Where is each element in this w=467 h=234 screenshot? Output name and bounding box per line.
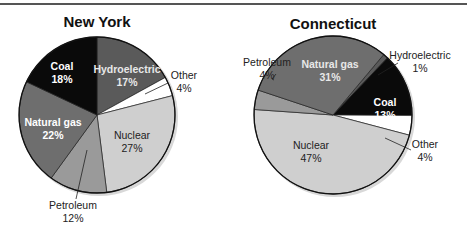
slice-label-other: Other <box>412 138 439 150</box>
slice-value-hydroelectric: 17% <box>116 76 138 88</box>
slice-label-coal: Coal <box>51 60 74 72</box>
slice-label-petroleum: Petroleum <box>243 56 291 68</box>
slice-value-petroleum: 12% <box>62 212 83 224</box>
pie-new-york: New York Coal 18% Hydroelectric 17% Othe… <box>19 13 198 224</box>
pie-slices <box>19 37 175 193</box>
slice-label-natural-gas: Natural gas <box>24 116 81 128</box>
slice-value-coal: 13% <box>374 109 396 121</box>
slice-label-hydroelectric: Hydroelectric <box>389 49 450 61</box>
slice-value-natural-gas: 31% <box>319 71 341 83</box>
slice-value-natural-gas: 22% <box>42 129 64 141</box>
slice-value-nuclear: 27% <box>121 142 142 154</box>
slice-value-hydroelectric: 1% <box>412 62 427 74</box>
pie-charts: New York Coal 18% Hydroelectric 17% Othe… <box>0 0 467 234</box>
chart-title-connecticut: Connecticut <box>290 15 377 32</box>
pie-connecticut: Connecticut Natural gas 31% Hydroelectri… <box>243 15 451 197</box>
chart-title-new-york: New York <box>64 13 132 30</box>
slice-value-other: 4% <box>417 151 432 163</box>
slice-label-petroleum: Petroleum <box>49 199 97 211</box>
slice-value-coal: 18% <box>51 73 73 85</box>
slice-label-hydroelectric: Hydroelectric <box>93 63 160 75</box>
slice-label-nuclear: Nuclear <box>293 139 330 151</box>
slice-label-coal: Coal <box>374 96 397 108</box>
slice-label-nuclear: Nuclear <box>114 129 151 141</box>
slice-value-other: 4% <box>176 82 191 94</box>
slice-value-nuclear: 47% <box>300 152 321 164</box>
slice-label-natural-gas: Natural gas <box>301 58 358 70</box>
slice-label-other: Other <box>171 69 198 81</box>
